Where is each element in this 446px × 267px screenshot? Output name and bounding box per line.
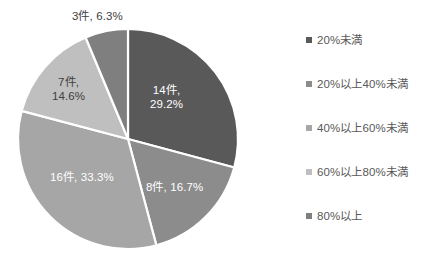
legend-item[interactable]: 40%以上60%未満 bbox=[306, 121, 408, 135]
data-label-slice-2: 8件, 16.7% bbox=[146, 180, 203, 194]
data-label-slice-5-text: 3件, 6.3% bbox=[72, 9, 123, 23]
data-label-slice-4: 7件, 14.6% bbox=[52, 75, 85, 103]
pie-graphic bbox=[0, 0, 290, 267]
data-label-slice-3: 16件, 33.3% bbox=[50, 170, 114, 184]
legend-item[interactable]: 20%未満 bbox=[306, 33, 363, 47]
legend-color-swatch bbox=[306, 169, 312, 175]
data-label-slice-1: 14件, 29.2% bbox=[150, 83, 183, 111]
legend-color-swatch bbox=[306, 125, 312, 131]
data-label-slice-2-text: 8件, 16.7% bbox=[146, 180, 203, 194]
legend-item[interactable]: 80%以上 bbox=[306, 209, 363, 223]
data-label-slice-4-percent: 14.6% bbox=[52, 89, 85, 103]
data-label-slice-4-count: 7件, bbox=[52, 75, 85, 89]
legend-item[interactable]: 60%以上80%未満 bbox=[306, 165, 408, 179]
pie-slice-group bbox=[18, 29, 238, 249]
legend-item[interactable]: 20%以上40%未満 bbox=[306, 77, 408, 91]
pie-plot-area: 14件, 29.2% 8件, 16.7% 16件, 33.3% 7件, 14.6… bbox=[0, 0, 290, 267]
legend-item-label: 80%以上 bbox=[317, 209, 363, 223]
data-label-slice-3-text: 16件, 33.3% bbox=[50, 170, 114, 184]
data-label-slice-1-count: 14件, bbox=[150, 83, 183, 97]
chart-legend: 20%未満20%以上40%未満40%以上60%未満60%以上80%未満80%以上 bbox=[306, 33, 446, 243]
legend-item-label: 20%未満 bbox=[317, 33, 363, 47]
data-label-slice-1-percent: 29.2% bbox=[150, 97, 183, 111]
data-label-slice-5: 3件, 6.3% bbox=[72, 9, 123, 23]
legend-color-swatch bbox=[306, 37, 312, 43]
legend-color-swatch bbox=[306, 81, 312, 87]
legend-item-label: 60%以上80%未満 bbox=[317, 165, 408, 179]
legend-item-label: 20%以上40%未満 bbox=[317, 77, 408, 91]
pie-chart: 14件, 29.2% 8件, 16.7% 16件, 33.3% 7件, 14.6… bbox=[0, 0, 446, 267]
legend-color-swatch bbox=[306, 213, 312, 219]
legend-item-label: 40%以上60%未満 bbox=[317, 121, 408, 135]
